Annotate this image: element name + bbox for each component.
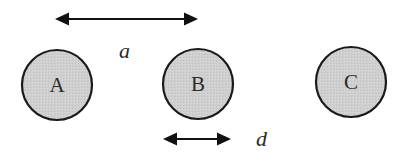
circle-C-label: C [344, 70, 358, 94]
circle-B: B [163, 49, 233, 119]
circle-C: C [316, 47, 386, 117]
arrowhead-left-icon [163, 133, 177, 146]
circle-B-label: B [191, 72, 205, 96]
spacing-arrow [55, 13, 198, 26]
arrowhead-right-icon [217, 133, 231, 146]
circle-A: A [22, 50, 92, 120]
circle-A-label: A [49, 73, 65, 97]
diameter-arrow [163, 133, 231, 146]
arrowhead-right-icon [184, 13, 198, 26]
arrowhead-left-icon [55, 13, 69, 26]
spacing-label: a [119, 38, 130, 63]
diagram-canvas: a A B C d [0, 0, 405, 154]
diameter-label: d [256, 126, 268, 151]
